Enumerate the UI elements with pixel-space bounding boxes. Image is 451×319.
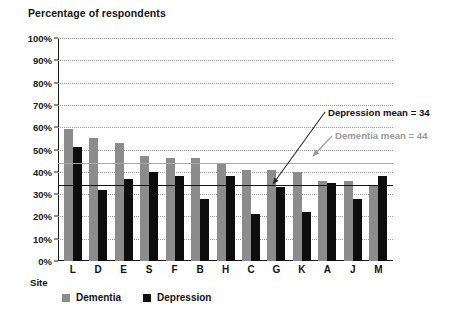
- bar-depression-A: [327, 183, 336, 261]
- bar-depression-K: [302, 212, 311, 261]
- bar-depression-F: [175, 176, 184, 261]
- x-tick-label-B: B: [187, 262, 212, 280]
- y-tick-label: 40%: [33, 166, 52, 177]
- x-tick-label-C: C: [238, 262, 263, 280]
- bar-depression-D: [98, 190, 107, 261]
- x-tick-label-L: L: [60, 262, 85, 280]
- chart-title: Percentage of respondents: [28, 7, 166, 19]
- bar-group: [264, 38, 289, 261]
- depression-mean-annotation: Depression mean = 34: [328, 107, 430, 118]
- y-tick-label: 80%: [33, 77, 52, 88]
- bar-group: [315, 38, 340, 261]
- y-tick-label: 90%: [33, 55, 52, 66]
- x-axis-labels: LDESFBHCGKAJM: [58, 262, 393, 280]
- bar-dementia-B: [191, 158, 200, 261]
- bar-dementia-C: [242, 170, 251, 261]
- x-tick-label-G: G: [264, 262, 289, 280]
- bar-group: [213, 38, 238, 261]
- chart-root: Percentage of respondents 100%90%80%70%6…: [0, 0, 451, 319]
- bar-group: [60, 38, 85, 261]
- x-tick-label-M: M: [366, 262, 391, 280]
- chart-legend: DementiaDepression: [62, 292, 211, 303]
- bar-dementia-H: [217, 163, 226, 261]
- bar-depression-E: [124, 179, 133, 262]
- bar-dementia-G: [267, 170, 276, 261]
- bar-depression-J: [353, 199, 362, 261]
- bar-group: [289, 38, 314, 261]
- y-tick-label: 0%: [38, 256, 52, 267]
- depression-mean-line: [58, 185, 393, 186]
- dementia-mean-line: [58, 163, 393, 164]
- bar-dementia-S: [140, 156, 149, 261]
- x-axis-title: Site: [30, 277, 48, 288]
- y-tick-label: 60%: [33, 122, 52, 133]
- x-tick-label-J: J: [340, 262, 365, 280]
- bar-dementia-M: [369, 185, 378, 261]
- bar-group: [85, 38, 110, 261]
- legend-label: Dementia: [76, 292, 121, 303]
- bar-dementia-J: [344, 181, 353, 261]
- legend-item-dementia[interactable]: Dementia: [62, 292, 121, 303]
- bar-group: [238, 38, 263, 261]
- bar-depression-B: [200, 199, 209, 261]
- y-tick-label: 10%: [33, 233, 52, 244]
- bar-dementia-E: [115, 143, 124, 261]
- bar-depression-G: [276, 187, 285, 261]
- y-tick-label: 50%: [33, 144, 52, 155]
- legend-label: Depression: [157, 292, 211, 303]
- bar-group: [111, 38, 136, 261]
- x-tick-label-H: H: [213, 262, 238, 280]
- bar-depression-L: [73, 147, 82, 261]
- y-tick-label: 70%: [33, 99, 52, 110]
- bar-group: [162, 38, 187, 261]
- y-tick-label: 30%: [33, 189, 52, 200]
- bar-dementia-A: [318, 181, 327, 261]
- dementia-mean-annotation: Dementia mean = 44: [335, 130, 428, 141]
- bar-group: [366, 38, 391, 261]
- legend-item-depression[interactable]: Depression: [143, 292, 211, 303]
- y-tick-label: 20%: [33, 211, 52, 222]
- bar-group: [136, 38, 161, 261]
- x-tick-label-E: E: [111, 262, 136, 280]
- bar-depression-C: [251, 214, 260, 261]
- x-tick-label-D: D: [85, 262, 110, 280]
- legend-swatch-dementia-icon: [62, 294, 70, 302]
- bar-depression-M: [378, 176, 387, 261]
- bar-dementia-F: [166, 158, 175, 261]
- bar-dementia-D: [89, 138, 98, 261]
- bar-dementia-L: [64, 129, 73, 261]
- bar-group: [187, 38, 212, 261]
- bar-groups: [58, 38, 393, 261]
- x-tick-label-A: A: [315, 262, 340, 280]
- y-tick-label: 100%: [28, 33, 52, 44]
- bar-depression-H: [226, 176, 235, 261]
- bar-group: [340, 38, 365, 261]
- legend-swatch-depression-icon: [143, 294, 151, 302]
- x-tick-label-K: K: [289, 262, 314, 280]
- x-tick-label-F: F: [162, 262, 187, 280]
- plot-area: 100%90%80%70%60%50%40%30%20%10%0%: [58, 38, 393, 261]
- x-tick-label-S: S: [136, 262, 161, 280]
